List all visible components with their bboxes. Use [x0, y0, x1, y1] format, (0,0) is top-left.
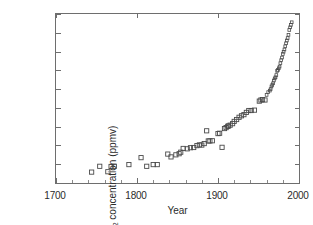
x-tick-1800 — [137, 178, 138, 183]
data-point — [205, 129, 209, 133]
y-tick-350 — [56, 33, 61, 34]
x-tick-label-1700: 1700 — [31, 191, 79, 201]
data-point — [127, 163, 131, 167]
data-point — [90, 170, 94, 174]
data-point — [206, 139, 210, 143]
data-point — [287, 33, 290, 36]
data-point — [284, 45, 287, 48]
x-tick-minor-1940 — [250, 180, 251, 183]
data-points-layer — [56, 14, 299, 183]
x-tick-minor-1720 — [72, 180, 73, 183]
y-tick-right-270 — [295, 183, 299, 184]
data-point — [98, 164, 102, 168]
co2-concentration-chart: 270280290300310320330340350360 170018001… — [0, 0, 313, 225]
x-tick-minor-1920 — [234, 180, 235, 183]
y-tick-280 — [56, 164, 61, 165]
x-tick-top-1700 — [56, 14, 57, 18]
y-tick-right-310 — [295, 108, 299, 109]
x-tick-minor-1840 — [169, 180, 170, 183]
data-point — [220, 145, 224, 149]
y-tick-290 — [56, 145, 61, 146]
x-tick-minor-1740 — [88, 180, 89, 183]
x-tick-1700 — [56, 178, 57, 183]
x-tick-minor-1980 — [283, 180, 284, 183]
y-tick-right-350 — [295, 33, 299, 34]
y-tick-right-300 — [295, 127, 299, 128]
data-point — [145, 164, 149, 168]
x-tick-label-1900: 1900 — [193, 191, 241, 201]
y-tick-right-280 — [295, 164, 299, 165]
x-tick-minor-1820 — [153, 180, 154, 183]
y-tick-right-320 — [295, 89, 299, 90]
y-axis-title-suffix: concentration (ppmv) — [107, 126, 118, 223]
data-point — [155, 163, 159, 167]
y-tick-right-330 — [295, 70, 299, 71]
y-tick-right-340 — [295, 52, 299, 53]
x-tick-minor-1880 — [202, 180, 203, 183]
y-tick-320 — [56, 89, 61, 90]
x-tick-top-1800 — [137, 14, 138, 18]
x-tick-top-1900 — [218, 14, 219, 18]
y-axis-title: CO2 concentration (ppmv) — [106, 98, 120, 225]
plot-frame — [55, 13, 300, 184]
x-tick-minor-1780 — [121, 180, 122, 183]
y-tick-330 — [56, 70, 61, 71]
plot-area — [56, 14, 299, 183]
data-point — [139, 156, 143, 160]
x-tick-1900 — [218, 178, 219, 183]
y-tick-right-290 — [295, 145, 299, 146]
x-tick-minor-1960 — [267, 180, 268, 183]
x-tick-2000 — [299, 178, 300, 183]
x-tick-minor-1860 — [186, 180, 187, 183]
data-point — [285, 42, 288, 45]
data-point — [265, 94, 268, 97]
x-axis-title: Year — [55, 205, 300, 216]
x-tick-top-2000 — [299, 14, 300, 18]
y-tick-310 — [56, 108, 61, 109]
y-tick-340 — [56, 52, 61, 53]
y-tick-270 — [56, 183, 61, 184]
x-tick-label-2000: 2000 — [274, 191, 313, 201]
data-point — [151, 163, 155, 167]
y-tick-300 — [56, 127, 61, 128]
data-point — [279, 62, 282, 65]
y-axis-title-subscript: 2 — [112, 222, 119, 225]
